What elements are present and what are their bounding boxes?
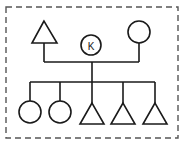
child1-circle bbox=[19, 101, 41, 123]
genogram-diagram: K bbox=[0, 0, 187, 145]
child5-triangle bbox=[143, 103, 167, 124]
child2-circle bbox=[49, 101, 71, 123]
father-triangle bbox=[32, 21, 57, 43]
child3-triangle bbox=[80, 103, 104, 124]
mother-circle bbox=[128, 21, 150, 43]
index-person-k: K bbox=[81, 35, 101, 55]
index-label: K bbox=[88, 41, 95, 52]
child4-triangle bbox=[111, 103, 135, 124]
